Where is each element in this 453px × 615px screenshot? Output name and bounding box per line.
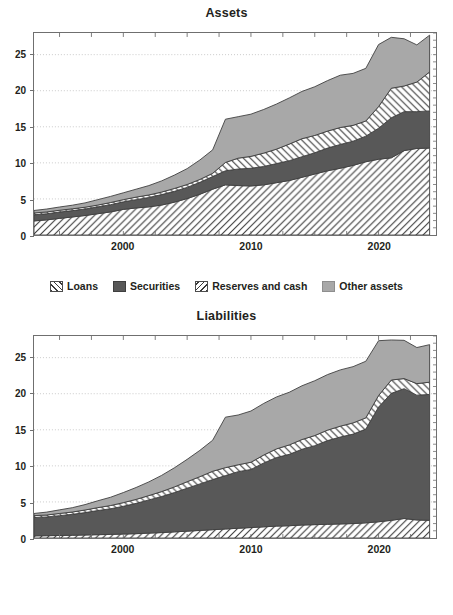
liabilities-plot-area	[33, 335, 437, 539]
liabilities-plot-frame	[33, 335, 437, 539]
assets-chart-title: Assets	[0, 6, 453, 20]
back-hatch-icon	[195, 281, 208, 292]
legend-label: Loans	[67, 280, 98, 292]
assets-legend: LoansSecuritiesReserves and cashOther as…	[0, 280, 453, 292]
assets-stacked-area-svg	[34, 33, 436, 235]
x-tick-label: 2020	[368, 543, 391, 555]
assets-plot-frame	[33, 32, 437, 236]
assets-plot-area	[33, 32, 437, 236]
forward-hatch-icon	[50, 281, 63, 292]
light-gray-square-icon	[322, 281, 335, 292]
legend-item[interactable]: Reserves and cash	[195, 280, 307, 292]
dark-gray-square-icon	[113, 281, 126, 292]
legend-label: Reserves and cash	[212, 280, 307, 292]
liabilities-chart-panel: Liabilities 0510152025 200020102020 Equi…	[0, 307, 453, 615]
legend-item[interactable]: Loans	[50, 280, 98, 292]
y-tick-label: 15	[15, 121, 26, 132]
x-tick-label: 2010	[239, 240, 262, 252]
legend-item[interactable]: Securities	[113, 280, 180, 292]
x-tick-label: 2020	[368, 240, 391, 252]
liabilities-y-axis: 0510152025	[0, 335, 30, 539]
assets-x-axis: 200020102020	[33, 240, 437, 260]
assets-chart-panel: Assets 0510152025 200020102020 LoansSecu…	[0, 0, 453, 307]
y-tick-label: 5	[20, 497, 26, 508]
liabilities-stacked-area-svg	[34, 336, 436, 538]
y-tick-label: 25	[15, 351, 26, 362]
x-tick-label: 2000	[111, 240, 134, 252]
y-tick-label: 5	[20, 194, 26, 205]
y-tick-label: 15	[15, 424, 26, 435]
y-tick-label: 25	[15, 48, 26, 59]
y-tick-label: 0	[20, 534, 26, 545]
y-tick-label: 0	[20, 231, 26, 242]
liabilities-x-axis: 200020102020	[33, 543, 437, 563]
y-tick-label: 20	[15, 85, 26, 96]
assets-y-axis: 0510152025	[0, 32, 30, 236]
x-tick-label: 2000	[111, 543, 134, 555]
y-tick-label: 20	[15, 388, 26, 399]
x-tick-label: 2010	[239, 543, 262, 555]
y-tick-label: 10	[15, 158, 26, 169]
legend-item[interactable]: Other assets	[322, 280, 403, 292]
legend-label: Other assets	[339, 280, 403, 292]
legend-label: Securities	[130, 280, 180, 292]
y-tick-mark	[30, 236, 34, 237]
liabilities-chart-title: Liabilities	[0, 309, 453, 323]
y-tick-mark	[30, 539, 34, 540]
y-tick-label: 10	[15, 461, 26, 472]
